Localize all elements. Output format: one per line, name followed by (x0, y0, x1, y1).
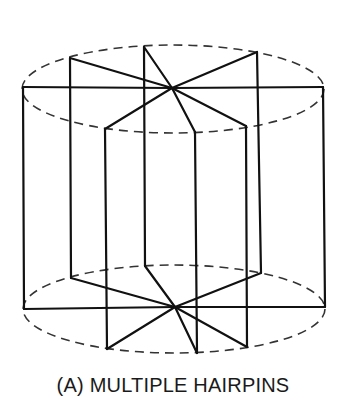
figure-caption: (A) MULTIPLE HAIRPINS (0, 374, 346, 397)
top-spoke (23, 87, 172, 88)
bottom-spoke (71, 278, 175, 307)
hairpin-leg (23, 87, 24, 309)
hairpin-leg (144, 47, 145, 266)
hairpin-leg (195, 132, 197, 353)
bottom-spoke (175, 273, 261, 307)
bottom-spoke (107, 307, 175, 349)
hairpin-leg (70, 58, 71, 278)
top-spoke (172, 87, 323, 88)
bottom-spoke (175, 307, 247, 347)
multiple-hairpins-diagram (0, 0, 346, 415)
top-spoke (70, 58, 172, 88)
hairpin-spokes (23, 47, 325, 353)
hairpin-leg (246, 126, 247, 347)
top-spoke (105, 88, 172, 129)
hairpin-leg (105, 129, 107, 349)
hairpin-leg (323, 87, 325, 307)
bottom-spoke (24, 307, 175, 309)
hairpin-leg (257, 52, 261, 273)
top-spoke (172, 52, 257, 88)
